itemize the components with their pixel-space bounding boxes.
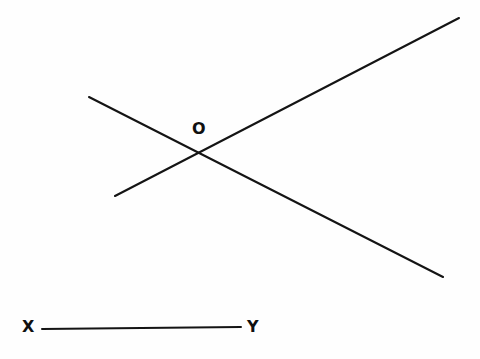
descending-line bbox=[89, 97, 443, 277]
ascending-line bbox=[115, 18, 459, 196]
point-label-y: Y bbox=[247, 319, 259, 335]
point-label-x: X bbox=[22, 319, 34, 335]
segment-xy-line bbox=[42, 327, 241, 329]
figure-canvas bbox=[0, 0, 480, 359]
geometry-figure: O X Y bbox=[0, 0, 480, 359]
point-label-o: O bbox=[192, 121, 206, 137]
